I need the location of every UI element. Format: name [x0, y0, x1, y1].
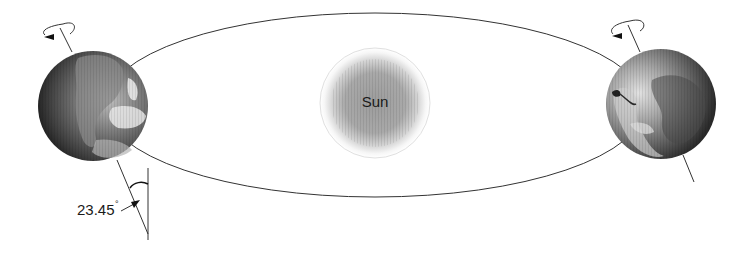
angle-arrowhead-icon — [131, 200, 140, 208]
rotation-arrow-icon — [44, 23, 75, 35]
tilt-angle-annotation: 23.45 ° — [77, 168, 148, 240]
sun-label: Sun — [362, 93, 389, 110]
angle-arc — [130, 182, 148, 188]
sun: Sun — [320, 48, 430, 158]
angle-label: 23.45 — [77, 201, 115, 218]
earth-right — [606, 20, 716, 182]
rotation-arrowhead-icon — [44, 34, 54, 40]
earth-orbit-diagram: Sun 23.45 ° — [0, 0, 747, 258]
rotation-arrow-icon — [612, 20, 644, 34]
degree-symbol: ° — [115, 199, 119, 209]
rotation-arrowhead-icon — [612, 33, 622, 39]
